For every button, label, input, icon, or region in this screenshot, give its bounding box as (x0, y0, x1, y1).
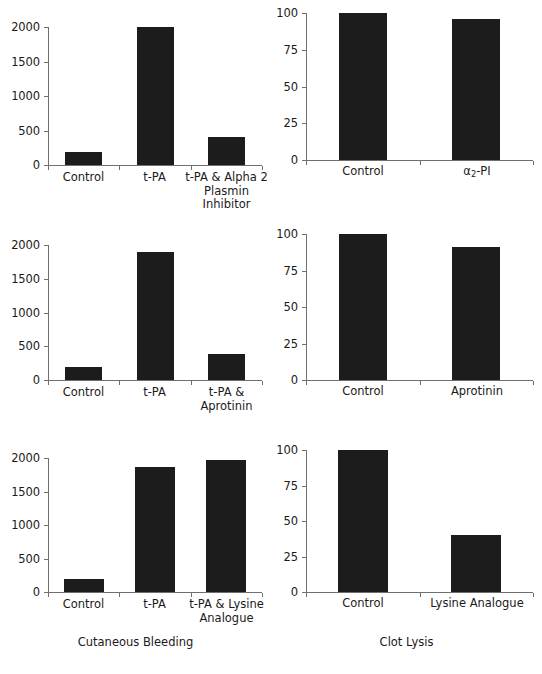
bar (452, 19, 500, 160)
y-axis-tick-label: 500 (0, 126, 40, 138)
y-axis-tick (44, 131, 48, 132)
y-axis-tick-label: 50 (258, 82, 298, 94)
x-axis-category-label: α2-PI (408, 165, 542, 182)
caption-cutaneous-bleeding: Cutaneous Bleeding (0, 636, 271, 649)
y-axis-tick (44, 27, 48, 28)
x-axis-category-label: Lysine Analogue (408, 597, 542, 611)
y-axis-tick-label: 500 (0, 341, 40, 353)
y-axis-tick-label: 0 (0, 375, 40, 387)
y-axis-tick (44, 279, 48, 280)
bar (208, 137, 245, 165)
x-axis-category-label: t-PA & Aprotinin (179, 386, 274, 413)
plot-area: 0500100015002000Controlt-PAt-PA & Aproti… (0, 225, 271, 410)
y-axis-line (48, 458, 49, 593)
y-axis-tick-label: 0 (258, 587, 298, 599)
bar (338, 450, 388, 592)
y-axis-tick (44, 525, 48, 526)
bar (137, 27, 174, 165)
bar (64, 579, 104, 592)
chart-panel-clotlysis-aprotinin: 0255075100ControlAprotinin (271, 225, 542, 440)
plot-area: 0255075100ControlLysine Analogue (271, 440, 542, 625)
y-axis-tick-label: 1500 (0, 57, 40, 69)
plot-area: 0500100015002000Controlt-PAt-PA & Alpha … (0, 0, 271, 185)
y-axis-line (48, 245, 49, 381)
y-axis-line (306, 234, 307, 381)
y-axis-tick (302, 271, 306, 272)
bar (339, 234, 387, 380)
y-axis-tick-label: 0 (0, 160, 40, 172)
x-axis-tick (48, 166, 49, 170)
y-axis-tick (44, 96, 48, 97)
y-axis-tick (44, 458, 48, 459)
y-axis-tick-label: 75 (258, 481, 298, 493)
y-axis-tick-label: 0 (258, 155, 298, 167)
y-axis-tick-label: 75 (258, 266, 298, 278)
y-axis-tick-label: 1000 (0, 91, 40, 103)
y-axis-tick (44, 62, 48, 63)
y-axis-tick-label: 1500 (0, 274, 40, 286)
bar (339, 13, 387, 160)
y-axis-tick-label: 75 (258, 45, 298, 57)
y-axis-tick (302, 521, 306, 522)
y-axis-tick-label: 25 (258, 552, 298, 564)
x-axis-category-label: t-PA & Lysine Analogue (179, 598, 274, 625)
y-axis-tick (44, 492, 48, 493)
plot-area: 0255075100Controlα2-PI (271, 0, 542, 185)
chart-panel-clotlysis-alpha2-pi: 0255075100Controlα2-PI (271, 0, 542, 225)
y-axis-line (306, 450, 307, 593)
bar (65, 152, 102, 165)
y-axis-tick-label: 1000 (0, 520, 40, 532)
y-axis-tick-label: 100 (258, 229, 298, 241)
y-axis-tick-label: 25 (258, 339, 298, 351)
x-axis-tick (119, 593, 120, 597)
x-axis-line (48, 380, 262, 381)
y-axis-tick-label: 2000 (0, 22, 40, 34)
y-axis-tick-label: 25 (258, 118, 298, 130)
y-axis-tick (302, 450, 306, 451)
y-axis-tick (302, 234, 306, 235)
chart-panel-bleeding-alpha2-pi: 0500100015002000Controlt-PAt-PA & Alpha … (0, 0, 271, 225)
y-axis-line (306, 13, 307, 161)
x-axis-line (48, 592, 262, 593)
y-axis-tick (302, 486, 306, 487)
y-axis-tick (302, 50, 306, 51)
caption-clot-lysis: Clot Lysis (271, 636, 542, 649)
y-axis-tick (302, 87, 306, 88)
y-axis-tick-label: 2000 (0, 240, 40, 252)
bar (206, 460, 246, 592)
x-axis-line (48, 165, 262, 166)
y-axis-tick-label: 500 (0, 554, 40, 566)
y-axis-tick (302, 344, 306, 345)
y-axis-tick (302, 307, 306, 308)
chart-panel-bleeding-lysine-analogue: 0500100015002000Controlt-PAt-PA & Lysine… (0, 440, 271, 674)
plot-area: 0255075100ControlAprotinin (271, 225, 542, 410)
y-axis-tick-label: 0 (258, 375, 298, 387)
y-axis-tick-label: 100 (258, 445, 298, 457)
figure-container: 0500100015002000Controlt-PAt-PA & Alpha … (0, 0, 542, 674)
bar (208, 354, 245, 380)
x-axis-category-label: t-PA & Alpha 2 Plasmin Inhibitor (179, 171, 274, 212)
bar (137, 252, 174, 380)
x-axis-tick (119, 381, 120, 385)
x-axis-tick (48, 593, 49, 597)
y-axis-tick (44, 245, 48, 246)
y-axis-tick-label: 2000 (0, 453, 40, 465)
bar (452, 247, 500, 380)
x-axis-category-label: Aprotinin (408, 385, 542, 399)
y-axis-tick-label: 1000 (0, 308, 40, 320)
bar (451, 535, 501, 592)
y-axis-tick-label: 1500 (0, 487, 40, 499)
plot-area: 0500100015002000Controlt-PAt-PA & Lysine… (0, 440, 271, 625)
y-axis-line (48, 27, 49, 166)
y-axis-tick (302, 557, 306, 558)
y-axis-tick-label: 50 (258, 516, 298, 528)
chart-panel-clotlysis-lysine-analogue: 0255075100ControlLysine Analogue Clot Ly… (271, 440, 542, 674)
y-axis-tick (302, 13, 306, 14)
y-axis-tick (44, 313, 48, 314)
y-axis-tick (302, 123, 306, 124)
x-axis-tick (191, 381, 192, 385)
y-axis-tick-label: 100 (258, 8, 298, 20)
x-axis-tick (48, 381, 49, 385)
y-axis-tick-label: 0 (0, 587, 40, 599)
y-axis-tick-label: 50 (258, 302, 298, 314)
